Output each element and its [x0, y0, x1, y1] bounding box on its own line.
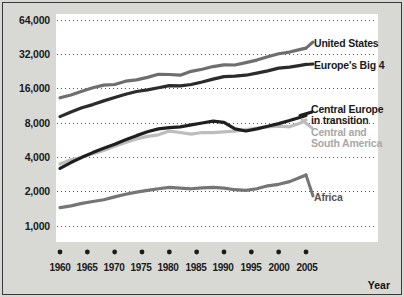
x-axis-title: Year [368, 279, 390, 291]
y-tick-label-1000: 1,000 [0, 220, 50, 232]
x-tick-dot-1995 [249, 250, 254, 255]
x-tick-dot-1980 [167, 250, 172, 255]
y-tick-label-8000: 8,000 [0, 117, 50, 129]
series-leader-0 [306, 42, 313, 48]
series-label-united-states: United States [314, 38, 379, 49]
series-label-central-south-america-line2: South America [311, 138, 382, 149]
x-tick-dot-1985 [194, 250, 199, 255]
x-tick-dot-2005 [304, 250, 309, 255]
y-tick-label-16000: 16,000 [0, 82, 50, 94]
y-tick-label-32000: 32,000 [0, 48, 50, 60]
x-tick-dot-1990 [222, 250, 227, 255]
y-tick-label-4000: 4,000 [0, 151, 50, 163]
x-tick-dot-1965 [85, 250, 90, 255]
y-tick-label-64000: 64,000 [0, 14, 50, 26]
series-line-europe-s-big-4 [60, 64, 306, 116]
x-tick-label-2005: 2005 [287, 262, 327, 273]
series-line-united-states [60, 48, 306, 98]
chart-page: 64,000 32,000 16,000 8,000 4,000 2,000 1… [0, 0, 404, 297]
series-leader-4 [306, 175, 313, 196]
y-tick-label-2000: 2,000 [0, 185, 50, 197]
x-tick-dot-2000 [276, 250, 281, 255]
x-tick-dot-1970 [112, 250, 117, 255]
series-label-europe-big4: Europe's Big 4 [314, 60, 384, 71]
series-label-central-europe-line2: in transition [311, 115, 368, 126]
series-label-africa: Africa [314, 192, 343, 203]
series-lines [60, 42, 313, 208]
x-tick-marks [58, 250, 309, 255]
x-tick-dot-1960 [58, 250, 63, 255]
x-tick-dot-1975 [140, 250, 145, 255]
